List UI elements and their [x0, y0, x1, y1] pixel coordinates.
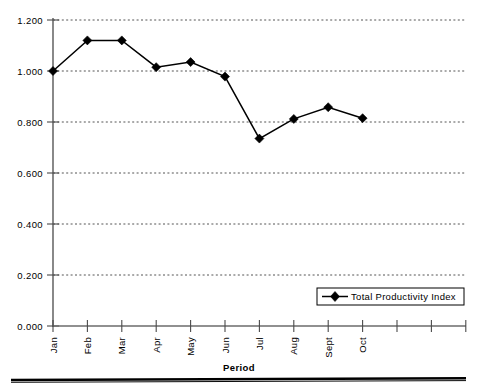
- y-tick-label-1.200: 1.200: [17, 15, 43, 26]
- x-tick-label-apr: Apr: [151, 337, 162, 353]
- x-axis-title: Period: [223, 362, 255, 373]
- y-tick-label-0.200: 0.200: [17, 270, 43, 281]
- period-axis: Jan Feb Mar Apr May Jun Jul Aug Sept Oct…: [48, 320, 467, 373]
- series-markers: [49, 36, 368, 143]
- series-line-total-productivity-index: [53, 40, 363, 138]
- footer-rule: [11, 378, 466, 382]
- y-tick-label-0.000: 0.000: [17, 321, 43, 332]
- productivity-index-chart: 1.200 1.000 0.800 0.600 0.400 0.200 0.00…: [0, 0, 477, 388]
- series-total-productivity-index: [49, 36, 368, 143]
- chart-canvas: 1.200 1.000 0.800 0.600 0.400 0.200 0.00…: [0, 0, 477, 388]
- gridlines: [53, 20, 466, 275]
- data-point-oct: [358, 114, 367, 123]
- y-tick-label-1.000: 1.000: [17, 66, 43, 77]
- y-tick-label-0.600: 0.600: [17, 168, 43, 179]
- data-point-may: [186, 58, 195, 67]
- x-tick-label-jan: Jan: [48, 337, 59, 353]
- x-tick-label-oct: Oct: [357, 337, 368, 353]
- value-axis: 1.200 1.000 0.800 0.600 0.400 0.200 0.00…: [17, 15, 59, 332]
- footer-rule-thick: [11, 378, 466, 380]
- x-tick-label-mar: Mar: [116, 337, 127, 354]
- y-tick-label-0.400: 0.400: [17, 219, 43, 230]
- y-tick-label-0.800: 0.800: [17, 117, 43, 128]
- data-point-jul: [255, 134, 264, 143]
- x-tick-label-jun: Jun: [220, 337, 231, 353]
- chart-legend[interactable]: Total Productivity Index: [317, 288, 464, 305]
- x-tick-label-aug: Aug: [288, 337, 299, 355]
- x-tick-label-sept: Sept: [323, 337, 334, 358]
- legend-label-total-productivity-index: Total Productivity Index: [351, 291, 456, 302]
- x-tick-label-may: May: [185, 337, 196, 356]
- x-tick-label-jul: Jul: [254, 337, 265, 350]
- x-tick-label-feb: Feb: [82, 337, 93, 354]
- data-point-jun: [221, 72, 230, 81]
- data-point-sept: [324, 103, 333, 112]
